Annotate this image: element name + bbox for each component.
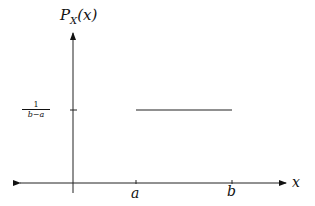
y-tick-denominator: b−a — [22, 110, 50, 119]
y-tick-numerator: 1 — [22, 100, 50, 110]
x-tick-label-b: b — [227, 183, 236, 199]
y-axis-label: PX(x) — [60, 6, 97, 26]
y-tick-label: 1 b−a — [22, 100, 50, 119]
x-tick-label-a: a — [131, 185, 139, 201]
uniform-pdf-figure: PX(x) 1 b−a x a b — [0, 0, 315, 206]
x-axis-label: x — [292, 174, 300, 190]
